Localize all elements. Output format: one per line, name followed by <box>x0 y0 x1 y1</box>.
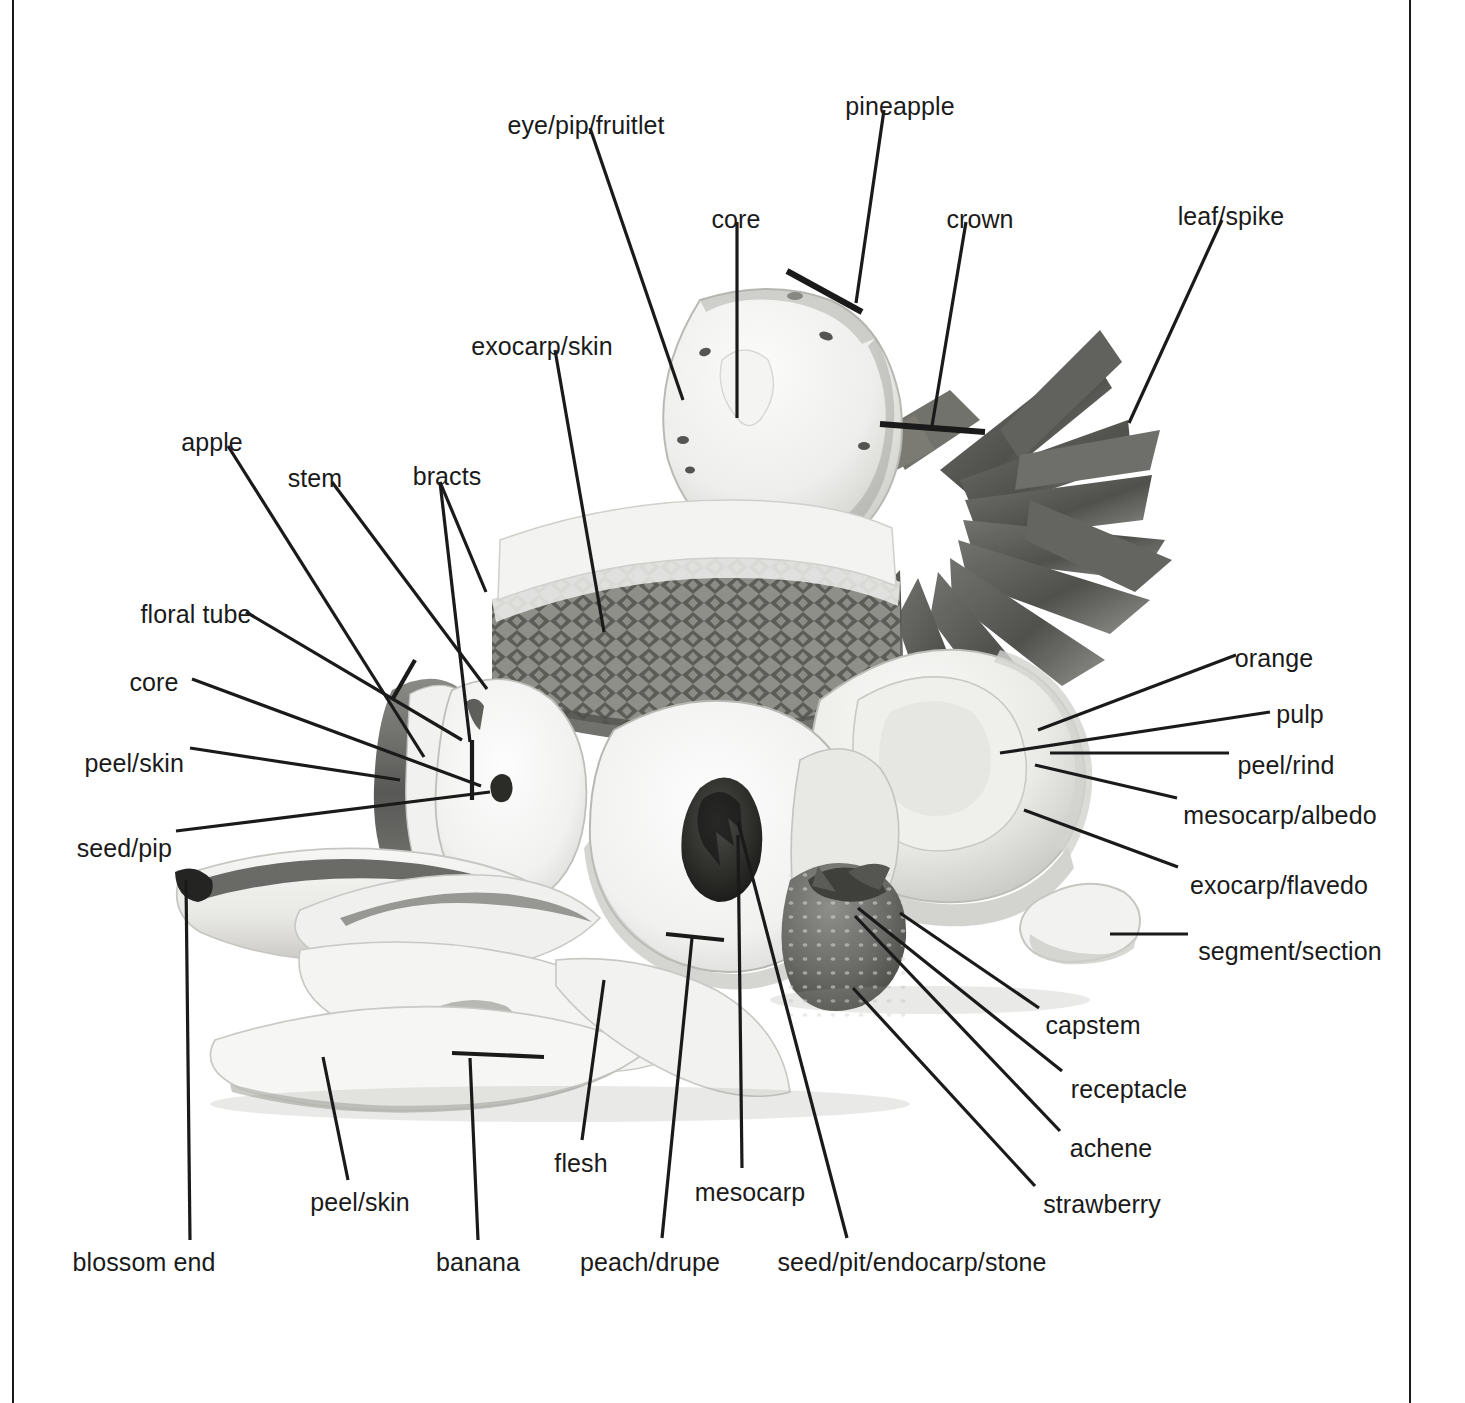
leader-capstem <box>900 913 1039 1008</box>
tick-stem-bracket <box>392 660 415 700</box>
label-eye-pip-fruitlet: eye/pip/fruitlet <box>507 113 664 138</box>
label-core-apple: core <box>129 670 178 695</box>
leader-peel-skin-banana <box>323 1057 348 1180</box>
label-banana: banana <box>436 1250 520 1275</box>
label-capstem: capstem <box>1045 1013 1140 1038</box>
label-stem: stem <box>288 466 343 491</box>
tick-crown <box>880 424 985 432</box>
leader-seed-pit-endocarp-stone <box>738 822 847 1238</box>
tick-banana <box>452 1053 544 1057</box>
label-seed-pit-endocarp-stone: seed/pit/endocarp/stone <box>777 1250 1046 1275</box>
leader-strawberry <box>853 988 1035 1186</box>
tick-peach <box>666 934 724 940</box>
label-mesocarp-albedo: mesocarp/albedo <box>1183 803 1376 828</box>
tick-pineapple <box>787 271 862 312</box>
leader-exocarp-skin <box>555 350 604 632</box>
leader-stem <box>332 482 487 689</box>
leader-blossom-end <box>186 880 190 1240</box>
figure-page: eye/pip/fruitlet pineapple core crown le… <box>0 0 1465 1403</box>
label-orange: orange <box>1235 646 1313 671</box>
leader-pulp <box>1000 712 1270 753</box>
label-bracts: bracts <box>413 464 482 489</box>
label-exocarp-skin-pineapple: exocarp/skin <box>471 334 613 359</box>
leader-leaf-spike <box>1129 220 1222 423</box>
leader-mesocarp-albedo <box>1035 765 1177 798</box>
label-mesocarp: mesocarp <box>695 1180 806 1205</box>
label-peach-drupe: peach/drupe <box>580 1250 720 1275</box>
label-floral-tube: floral tube <box>141 602 252 627</box>
leader-exocarp-flavedo <box>1024 810 1178 867</box>
label-achene: achene <box>1070 1136 1153 1161</box>
label-peel-skin-apple: peel/skin <box>84 751 184 776</box>
leader-seed-pip <box>176 792 490 831</box>
label-receptacle: receptacle <box>1071 1077 1187 1102</box>
label-strawberry: strawberry <box>1043 1192 1161 1217</box>
label-leaf-spike: leaf/spike <box>1178 204 1285 229</box>
leader-banana <box>470 1058 478 1240</box>
label-pulp: pulp <box>1276 702 1324 727</box>
label-apple: apple <box>181 430 243 455</box>
leader-apple <box>228 446 424 757</box>
leader-floral-tube <box>246 612 462 740</box>
label-peel-rind: peel/rind <box>1238 753 1335 778</box>
label-exocarp-flavedo: exocarp/flavedo <box>1190 873 1368 898</box>
label-flesh: flesh <box>554 1151 607 1176</box>
label-pineapple: pineapple <box>845 94 954 119</box>
leader-peach-drupe <box>662 938 692 1238</box>
label-core-pineapple: core <box>711 207 760 232</box>
label-crown: crown <box>946 207 1013 232</box>
label-peel-skin-banana: peel/skin <box>310 1190 410 1215</box>
leader-mesocarp <box>738 835 742 1168</box>
label-segment-section: segment/section <box>1198 939 1382 964</box>
leader-peel-skin-apple <box>190 748 400 780</box>
label-seed-pip: seed/pip <box>77 836 172 861</box>
leader-orange <box>1038 655 1236 730</box>
label-blossom-end: blossom end <box>73 1250 216 1275</box>
leader-pineapple <box>856 110 884 303</box>
leader-receptacle <box>858 908 1062 1071</box>
leader-flesh <box>582 980 604 1140</box>
leader-crown <box>932 222 966 426</box>
